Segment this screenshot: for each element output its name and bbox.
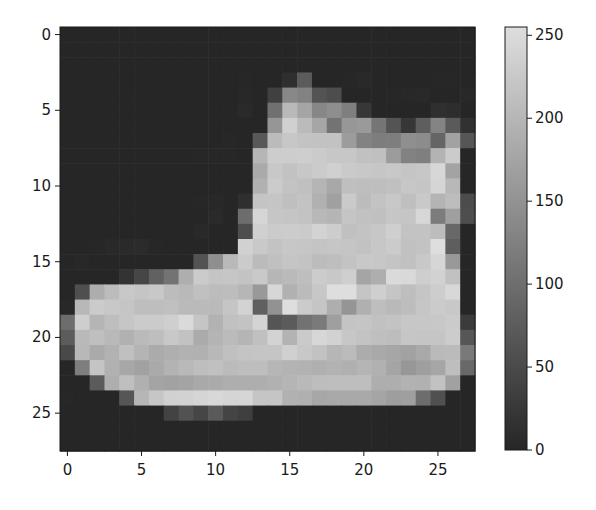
pixel-cell — [238, 330, 253, 346]
pixel-cell — [282, 133, 297, 149]
pixel-cell — [223, 118, 238, 134]
pixel-cell — [104, 315, 119, 331]
pixel-cell — [371, 209, 386, 225]
pixel-cell — [193, 345, 208, 361]
pixel-cell — [223, 284, 238, 300]
pixel-cell — [268, 194, 283, 210]
pixel-cell — [371, 421, 386, 437]
pixel-cell — [253, 330, 268, 346]
pixel-cell — [223, 224, 238, 240]
pixel-cell — [119, 209, 134, 225]
pixel-cell — [327, 42, 342, 58]
pixel-cell — [90, 178, 105, 194]
pixel-cell — [445, 163, 460, 179]
pixel-cell — [253, 72, 268, 88]
pixel-cell — [60, 72, 75, 88]
pixel-cell — [134, 103, 149, 119]
pixel-cell — [371, 72, 386, 88]
pixel-cell — [401, 330, 416, 346]
pixel-cell — [401, 148, 416, 164]
pixel-cell — [134, 224, 149, 240]
pixel-cell — [312, 103, 327, 119]
pixel-cell — [208, 239, 223, 255]
pixel-cell — [208, 284, 223, 300]
pixel-cell — [90, 57, 105, 73]
pixel-cell — [401, 300, 416, 316]
pixel-cell — [342, 284, 357, 300]
pixel-cell — [164, 27, 179, 43]
pixel-cell — [268, 133, 283, 149]
pixel-cell — [90, 421, 105, 437]
pixel-cell — [401, 269, 416, 285]
pixel-cell — [431, 57, 446, 73]
pixel-cell — [297, 239, 312, 255]
pixel-cell — [416, 118, 431, 134]
pixel-cell — [268, 224, 283, 240]
pixel-cell — [164, 209, 179, 225]
pixel-cell — [238, 27, 253, 43]
pixel-cell — [460, 133, 475, 149]
pixel-cell — [238, 194, 253, 210]
pixel-cell — [119, 224, 134, 240]
pixel-cell — [208, 224, 223, 240]
pixel-cell — [431, 72, 446, 88]
pixel-cell — [238, 239, 253, 255]
pixel-cell — [179, 178, 194, 194]
pixel-cell — [60, 269, 75, 285]
pixel-cell — [342, 72, 357, 88]
pixel-cell — [342, 224, 357, 240]
pixel-cell — [416, 345, 431, 361]
pixel-cell — [208, 72, 223, 88]
pixel-cell — [104, 239, 119, 255]
pixel-cell — [401, 178, 416, 194]
pixel-cell — [179, 390, 194, 406]
pixel-cell — [149, 148, 164, 164]
pixel-cell — [208, 163, 223, 179]
pixel-cell — [356, 421, 371, 437]
pixel-cell — [104, 390, 119, 406]
pixel-cell — [416, 72, 431, 88]
pixel-cell — [75, 421, 90, 437]
pixel-cell — [401, 224, 416, 240]
pixel-cell — [297, 133, 312, 149]
pixel-cell — [460, 315, 475, 331]
pixel-cell — [208, 375, 223, 391]
pixel-cell — [90, 284, 105, 300]
pixel-cell — [134, 148, 149, 164]
pixel-cell — [401, 421, 416, 437]
pixel-cell — [356, 390, 371, 406]
pixel-cell — [312, 360, 327, 376]
pixel-cell — [445, 345, 460, 361]
pixel-cell — [386, 390, 401, 406]
pixel-cell — [149, 72, 164, 88]
pixel-cell — [223, 163, 238, 179]
pixel-cell — [179, 421, 194, 437]
pixel-cell — [312, 148, 327, 164]
pixel-cell — [75, 88, 90, 104]
pixel-cell — [193, 315, 208, 331]
pixel-cell — [268, 345, 283, 361]
pixel-cell — [297, 284, 312, 300]
pixel-cell — [90, 239, 105, 255]
pixel-cell — [342, 345, 357, 361]
pixel-cell — [356, 178, 371, 194]
pixel-cell — [179, 284, 194, 300]
pixel-cell — [401, 406, 416, 422]
pixel-cell — [119, 133, 134, 149]
pixel-cell — [327, 224, 342, 240]
pixel-cell — [90, 103, 105, 119]
pixel-cell — [327, 209, 342, 225]
pixel-cell — [386, 330, 401, 346]
pixel-cell — [60, 133, 75, 149]
pixel-cell — [386, 148, 401, 164]
pixel-cell — [90, 148, 105, 164]
pixel-cell — [75, 103, 90, 119]
pixel-cell — [431, 284, 446, 300]
pixel-cell — [268, 360, 283, 376]
pixel-cell — [312, 57, 327, 73]
pixel-cell — [253, 345, 268, 361]
pixel-cell — [327, 239, 342, 255]
pixel-cell — [342, 194, 357, 210]
pixel-cell — [416, 163, 431, 179]
pixel-cell — [149, 224, 164, 240]
